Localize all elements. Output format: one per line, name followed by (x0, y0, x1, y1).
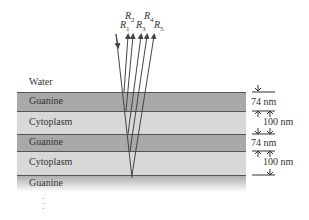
guanine-thickness-label-2: 74 nm (251, 137, 276, 148)
incident-ray (116, 34, 132, 178)
ray-diagram (0, 0, 309, 220)
ray-label-r5: R5 (154, 19, 164, 33)
ray-label-r3: R3 (136, 19, 146, 33)
guanine-thickness-label-1: 74 nm (251, 96, 276, 107)
cytoplasm-thickness-label-1: 100 nm (263, 116, 293, 127)
cytoplasm-thickness-label-2: 100 nm (263, 156, 293, 167)
ray-label-r1: R1 (120, 19, 130, 33)
continuation-dots: ··· (42, 196, 45, 211)
reflected-ray-r1 (124, 36, 128, 92)
reflected-ray-r5 (132, 36, 154, 175)
